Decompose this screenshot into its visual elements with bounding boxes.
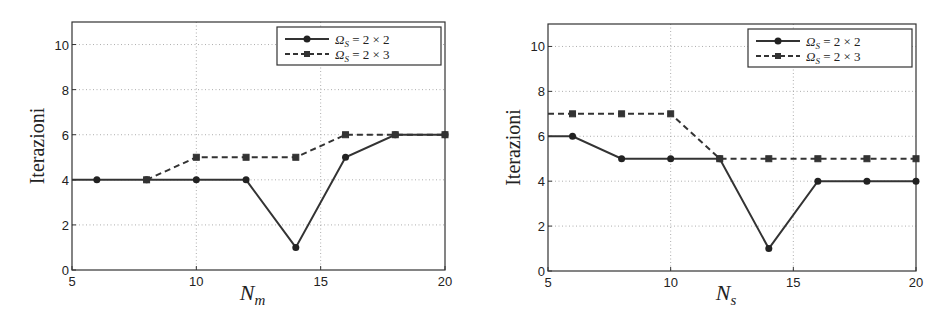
y-tick-label: 8	[538, 84, 545, 99]
x-axis-label: Nm	[239, 280, 266, 308]
x-tick-label: 15	[313, 274, 327, 289]
data-point	[668, 111, 674, 117]
data-point	[293, 154, 299, 160]
data-point	[913, 178, 920, 185]
y-tick-label: 0	[62, 263, 69, 278]
data-point	[343, 132, 349, 138]
x-tick-label: 20	[438, 274, 452, 289]
series-1	[548, 133, 920, 252]
series-2	[144, 132, 448, 183]
y-tick-label: 6	[62, 128, 69, 143]
data-point	[342, 154, 349, 161]
data-point	[193, 154, 199, 160]
x-tick-label: 10	[663, 275, 677, 290]
x-tick-label: 5	[544, 275, 551, 290]
x-axis-label: Ns	[715, 280, 737, 308]
x-tick-label: 20	[909, 275, 923, 290]
y-axis-label: Iterazioni	[502, 109, 524, 186]
y-tick-label: 10	[531, 39, 545, 54]
y-tick-label: 4	[538, 174, 545, 189]
data-point	[913, 156, 919, 162]
y-tick-label: 2	[62, 218, 69, 233]
data-point	[570, 111, 576, 117]
data-point	[667, 155, 674, 162]
legend-entry: ΩS = 2 × 3	[335, 47, 390, 64]
data-point	[619, 111, 625, 117]
y-tick-label: 6	[538, 129, 545, 144]
y-tick-label: 2	[538, 219, 545, 234]
data-point	[815, 156, 821, 162]
legend-entry: ΩS = 2 × 3	[806, 49, 861, 66]
data-point	[243, 176, 250, 183]
data-point	[243, 154, 249, 160]
chart-2: 51015200246810IterazioniNsΩS = 2 × 2ΩS =…	[502, 24, 923, 308]
data-point	[144, 177, 150, 183]
series-1	[72, 131, 449, 251]
data-point	[292, 244, 299, 251]
figure: 51015200246810IterazioniNmΩS = 2 × 2ΩS =…	[0, 0, 946, 323]
data-point	[392, 132, 398, 138]
x-tick-label: 15	[786, 275, 800, 290]
y-axis-label: Iterazioni	[26, 107, 48, 184]
chart-1: 51015200246810IterazioniNmΩS = 2 × 2ΩS =…	[26, 22, 452, 308]
data-point	[618, 155, 625, 162]
legend: ΩS = 2 × 2ΩS = 2 × 3	[748, 29, 912, 67]
x-tick-label: 5	[68, 274, 75, 289]
y-tick-label: 0	[538, 264, 545, 279]
data-point	[864, 156, 870, 162]
data-point	[814, 178, 821, 185]
data-point	[766, 156, 772, 162]
data-point	[93, 176, 100, 183]
data-point	[717, 156, 723, 162]
legend: ΩS = 2 × 2ΩS = 2 × 3	[277, 27, 441, 65]
data-point	[193, 176, 200, 183]
data-point	[442, 132, 448, 138]
data-point	[863, 178, 870, 185]
x-tick-label: 10	[189, 274, 203, 289]
y-tick-label: 10	[55, 38, 69, 53]
data-point	[569, 133, 576, 140]
y-tick-label: 4	[62, 173, 69, 188]
y-tick-label: 8	[62, 83, 69, 98]
data-point	[765, 245, 772, 252]
